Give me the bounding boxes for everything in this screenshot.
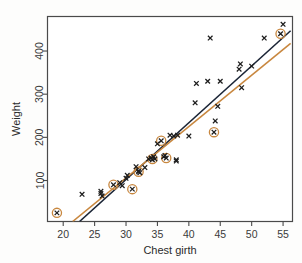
x-tick-label: 35: [152, 228, 164, 240]
x-tick-label: 55: [277, 228, 289, 240]
x-tick-label: 25: [89, 228, 101, 240]
plot-frame: [48, 17, 293, 222]
y-tick-label: 400: [34, 42, 46, 60]
x-tick-label: 40: [183, 228, 195, 240]
scatter-plot: 2025303540455055100200300400Chest girthW…: [0, 0, 302, 263]
chart-container: 2025303540455055100200300400Chest girthW…: [0, 0, 302, 263]
x-axis-title: Chest girth: [143, 244, 196, 256]
y-axis-title: Weight: [10, 102, 22, 136]
x-tick-label: 45: [214, 228, 226, 240]
y-tick-label: 200: [34, 128, 46, 146]
x-tick-label: 20: [57, 228, 69, 240]
y-tick-label: 100: [34, 172, 46, 190]
y-tick-label: 300: [34, 85, 46, 103]
x-tick-label: 30: [120, 228, 132, 240]
x-tick-label: 50: [246, 228, 258, 240]
